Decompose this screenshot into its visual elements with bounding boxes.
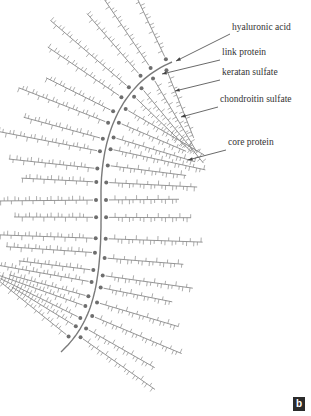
link-protein-dot bbox=[94, 215, 98, 219]
core-protein-strand bbox=[89, 330, 155, 368]
link-protein-dot bbox=[109, 147, 113, 151]
link-protein-dot bbox=[67, 334, 71, 338]
link-protein-dot bbox=[94, 198, 98, 202]
arrowhead-icon bbox=[176, 57, 181, 61]
link-protein-dot bbox=[106, 121, 110, 125]
link-protein-dot bbox=[117, 121, 121, 125]
core-protein-strand bbox=[19, 261, 90, 270]
link-protein-dot bbox=[140, 86, 144, 90]
arrowhead-icon bbox=[175, 88, 180, 91]
core-protein-strand bbox=[21, 178, 93, 182]
link-protein-dot bbox=[104, 215, 108, 219]
link-protein-dot bbox=[94, 180, 98, 184]
chondroitin-sulfate-arrow-line bbox=[181, 107, 218, 117]
link-protein-dot bbox=[95, 167, 99, 171]
link-protein-dot bbox=[164, 57, 168, 61]
link-protein-dot bbox=[119, 95, 123, 99]
link-protein-dot bbox=[95, 300, 99, 304]
arrowhead-icon bbox=[181, 114, 186, 117]
link-protein-dot bbox=[84, 326, 88, 330]
link-protein-dot bbox=[93, 251, 97, 255]
aggrecan-diagram bbox=[0, 0, 311, 416]
link-protein-dot bbox=[103, 256, 107, 260]
link-protein-dot bbox=[90, 280, 94, 284]
core-protein-strand bbox=[51, 21, 127, 86]
core-protein-strand bbox=[12, 287, 73, 325]
link-protein-dot bbox=[149, 66, 153, 70]
label-hyaluronic-acid: hyaluronic acid bbox=[232, 22, 291, 32]
link-protein-dot bbox=[86, 294, 90, 298]
core-protein-strand bbox=[109, 239, 203, 242]
arrowhead-icon bbox=[188, 157, 193, 160]
link-protein-dot bbox=[74, 324, 78, 328]
link-protein-dot bbox=[127, 85, 131, 89]
link-protein-dot bbox=[111, 109, 115, 113]
core-protein-strand bbox=[108, 258, 184, 264]
label-link-protein: link protein bbox=[222, 47, 266, 57]
link-protein-dot bbox=[104, 180, 108, 184]
link-protein-dot bbox=[78, 316, 82, 320]
link-protein-dot bbox=[112, 135, 116, 139]
label-chondroitin-sulfate: chondroitin sulfate bbox=[220, 94, 292, 104]
core-protein-strand bbox=[0, 235, 93, 239]
panel-label-badge: b bbox=[293, 397, 305, 411]
link-protein-dot bbox=[101, 137, 105, 141]
link-protein-dot bbox=[104, 237, 108, 241]
link-protein-dot bbox=[132, 95, 136, 99]
core-protein-strand bbox=[168, 73, 194, 138]
link-protein-dot bbox=[104, 198, 108, 202]
link-protein-dot bbox=[139, 74, 143, 78]
core-protein-strand bbox=[0, 132, 97, 151]
link-protein-dot bbox=[164, 68, 168, 72]
core-protein-strand bbox=[19, 88, 106, 122]
link-protein-dot bbox=[98, 149, 102, 153]
link-protein-dot bbox=[124, 107, 128, 111]
core-protein-strand bbox=[87, 14, 139, 74]
link-protein-dot bbox=[90, 314, 94, 318]
link-protein-dot bbox=[83, 304, 87, 308]
link-protein-dot bbox=[79, 335, 83, 339]
core-protein-strand bbox=[0, 200, 93, 201]
link-protein-dot bbox=[106, 163, 110, 167]
link-protein-dot bbox=[91, 268, 95, 272]
keratan-sulfate-arrow-line bbox=[175, 80, 220, 91]
link-protein-dot bbox=[101, 274, 105, 278]
label-keratan-sulfate: keratan sulfate bbox=[222, 67, 278, 77]
label-core-protein: core protein bbox=[228, 137, 274, 147]
arrowhead-icon bbox=[162, 71, 167, 74]
core-protein-strand bbox=[95, 317, 182, 353]
core-protein-strand bbox=[100, 303, 179, 326]
link-protein-dot bbox=[99, 286, 103, 290]
link-protein-dot bbox=[94, 236, 98, 240]
link-protein-dot bbox=[151, 76, 155, 80]
